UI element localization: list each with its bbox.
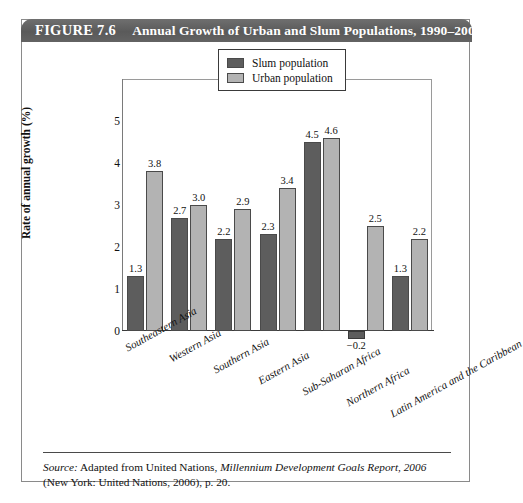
bar-value-urban-6: 2.2 <box>406 226 433 237</box>
x-label-4: Sub-Saharan Africa <box>300 345 382 398</box>
bar-value-slum-6: 1.3 <box>387 263 414 274</box>
bar-value-urban-3: 3.4 <box>274 175 301 186</box>
legend-item-urban: Urban population <box>227 70 333 85</box>
chart-canvas: Rate of annual growth (%) 012345 1.33.82… <box>22 43 469 437</box>
x-label-6: Latin America and the Caribbean <box>388 337 523 419</box>
y-tick-4: 4 <box>102 157 120 169</box>
bar-urban-0 <box>146 171 163 331</box>
y-tick-1: 1 <box>102 283 120 295</box>
figure-title-bar: FIGURE 7.6 Annual Growth of Urban and Sl… <box>21 19 472 42</box>
bar-urban-3 <box>279 188 296 331</box>
figure-number: FIGURE 7.6 <box>35 22 116 39</box>
bar-value-urban-4: 4.6 <box>318 125 345 136</box>
bar-urban-6 <box>411 239 428 331</box>
x-label-2: Southern Asia <box>211 335 271 375</box>
legend-label-slum: Slum population <box>252 57 328 69</box>
x-label-1: Western Asia <box>167 326 223 364</box>
bar-slum-4 <box>304 142 321 331</box>
bar-slum-6 <box>392 276 409 331</box>
bar-urban-5 <box>367 226 384 331</box>
bar-slum-5 <box>348 331 365 339</box>
bar-urban-1 <box>190 205 207 331</box>
source-label: Source: <box>43 461 78 473</box>
y-tick-5: 5 <box>102 115 120 127</box>
bar-value-slum-1: 2.7 <box>166 205 193 216</box>
bar-value-slum-5: −0.2 <box>343 340 370 351</box>
bar-urban-4 <box>323 138 340 331</box>
bar-value-slum-0: 1.3 <box>122 263 149 274</box>
source-note: Source: Adapted from United Nations, Mil… <box>43 452 451 491</box>
y-tick-0: 0 <box>102 325 120 337</box>
bar-value-slum-3: 2.3 <box>255 221 282 232</box>
figure-container: FIGURE 7.6 Annual Growth of Urban and Sl… <box>21 19 470 482</box>
bar-value-urban-2: 2.9 <box>229 196 256 207</box>
x-label-5: Northern Africa <box>344 364 411 409</box>
y-axis-tick-labels: 012345 <box>96 43 120 437</box>
bar-value-urban-1: 3.0 <box>185 192 212 203</box>
legend-label-urban: Urban population <box>252 72 333 84</box>
chart-legend: Slum population Urban population <box>218 49 346 91</box>
figure-title: Annual Growth of Urban and Slum Populati… <box>132 23 472 39</box>
y-axis-title: Rate of annual growth (%) <box>20 107 32 239</box>
x-label-3: Eastern Asia <box>256 349 311 387</box>
bar-slum-0 <box>127 276 144 331</box>
y-tick-3: 3 <box>102 199 120 211</box>
legend-swatch-urban-icon <box>227 73 244 83</box>
bar-value-urban-5: 2.5 <box>362 213 389 224</box>
source-text-after: (New York: United Nations, 2006), p. 20. <box>43 476 230 488</box>
source-text-before: Adapted from United Nations, <box>78 461 220 473</box>
source-publication-title: Millennium Development Goals Report, 200… <box>220 461 426 473</box>
bar-urban-2 <box>234 209 251 331</box>
bar-slum-3 <box>260 234 277 331</box>
bar-value-urban-0: 3.8 <box>141 158 168 169</box>
y-tick-2: 2 <box>102 241 120 253</box>
legend-item-slum: Slum population <box>227 55 333 70</box>
bar-slum-2 <box>215 239 232 331</box>
legend-swatch-slum-icon <box>227 58 244 68</box>
bar-slum-1 <box>171 218 188 331</box>
bars-layer: 1.33.82.73.02.22.92.33.44.54.6−0.22.51.3… <box>123 79 432 331</box>
bar-value-slum-2: 2.2 <box>210 226 237 237</box>
